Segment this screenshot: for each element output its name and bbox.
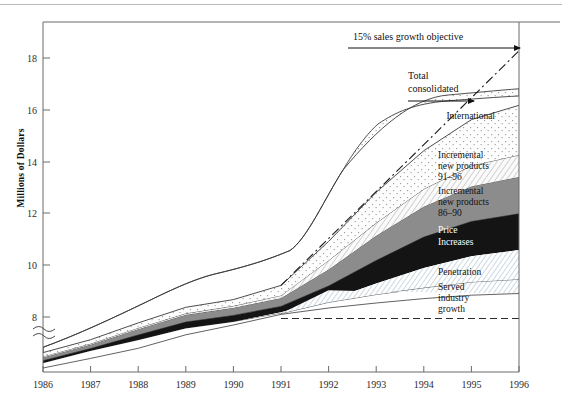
band-label-incr-86-90-line2: new products: [438, 197, 489, 207]
y-axis-break-symbol: [33, 327, 55, 339]
band-label-incr-91-96-line3: 91–96: [438, 172, 462, 182]
chart-svg: 18 16 14 12 10 8: [0, 0, 562, 395]
objective-label: 15% sales growth objective: [353, 31, 464, 42]
band-label-international: International: [446, 111, 495, 121]
x-tick-label-1990: 1990: [223, 379, 243, 390]
band-label-incr-91-96-line2: new products: [438, 161, 489, 171]
band-label-price-line2: Increases: [438, 237, 474, 247]
x-tick-label-1987: 1987: [81, 379, 101, 390]
x-tick-label-1989: 1989: [176, 379, 196, 390]
y-tick-label-10: 10: [27, 260, 37, 271]
x-tick-label-1995: 1995: [461, 379, 481, 390]
annotation-objective: 15% sales growth objective: [348, 31, 520, 48]
chart-figure: Millions of Dollars: [0, 0, 562, 395]
band-label-price-line1: Price: [438, 225, 458, 235]
x-tick-label-1991: 1991: [271, 379, 291, 390]
y-tick-label-12: 12: [27, 208, 37, 219]
y-tick-label-8: 8: [32, 312, 37, 323]
y-tick-label-16: 16: [27, 105, 37, 116]
x-tick-label-1994: 1994: [414, 379, 434, 390]
band-label-served-line3: growth: [438, 304, 465, 314]
band-label-served-line1: Served: [438, 282, 465, 292]
y-tick-label-18: 18: [27, 53, 37, 64]
x-tick-label-1986: 1986: [33, 379, 53, 390]
x-tick-label-1992: 1992: [319, 379, 339, 390]
x-tick-label-1988: 1988: [128, 379, 148, 390]
x-tick-label-1996: 1996: [509, 379, 529, 390]
band-label-incr-86-90-line3: 86–90: [438, 208, 462, 218]
y-tick-label-14: 14: [27, 157, 37, 168]
x-tick-label-1993: 1993: [366, 379, 386, 390]
band-label-served-line2: industry: [438, 293, 469, 303]
band-label-penetration: Penetration: [438, 267, 482, 277]
band-label-incr-86-90-line1: Incremental: [438, 186, 484, 196]
band-label-incr-91-96-line1: Incremental: [438, 150, 484, 160]
total-consolidated-line2: consolidated: [408, 83, 459, 94]
y-tick-marks: [43, 58, 50, 317]
total-consolidated-line1: Total: [408, 70, 429, 81]
